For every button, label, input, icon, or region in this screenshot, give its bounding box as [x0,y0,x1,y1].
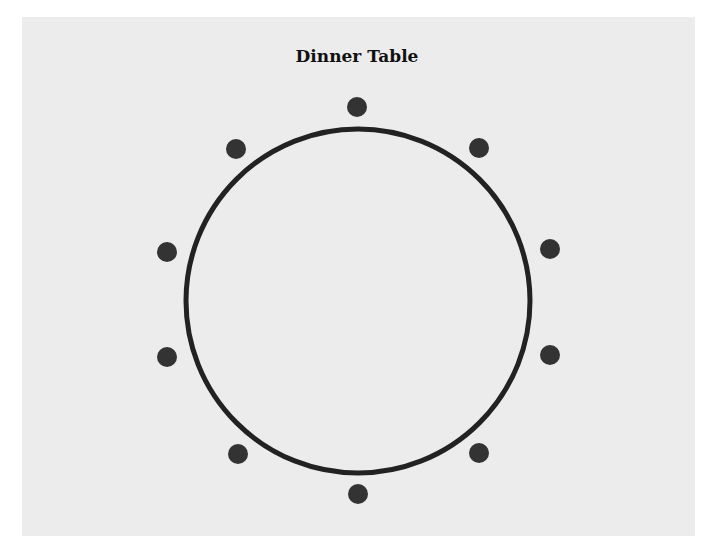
dinner-table-diagram [0,0,714,554]
seat-dot [469,138,489,158]
seat-dot [228,444,248,464]
seat-dot [469,443,489,463]
seat-dot [348,484,368,504]
seat-dot [157,347,177,367]
seat-dot [540,345,560,365]
seat-dot [540,239,560,259]
seat-dot [347,97,367,117]
seats-group [157,97,560,504]
seat-dot [157,242,177,262]
table-circle [186,129,530,473]
seat-dot [226,139,246,159]
